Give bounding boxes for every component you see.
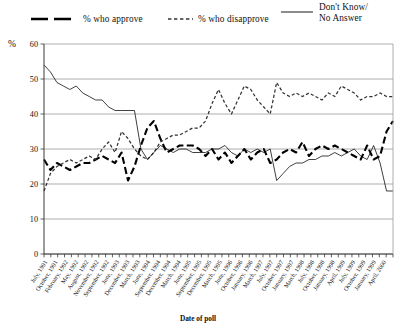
x-axis-title: Date of poll xyxy=(180,314,216,323)
data-series-group xyxy=(44,65,393,191)
series-line-disapprove xyxy=(44,83,393,192)
poll-approval-line-chart: % who approve % who disapprove Don't Kno… xyxy=(0,0,406,333)
y-axis-ticks xyxy=(41,44,45,254)
x-axis-ticks xyxy=(44,254,393,257)
y-axis-tick-label: 30 xyxy=(30,145,38,154)
x-axis-labels: July, 1991October, 1991February, 1992May… xyxy=(29,259,387,298)
chart-plot-area: 0102030405060 July, 1991October, 1991Feb… xyxy=(0,0,406,333)
series-line-approve xyxy=(44,121,393,181)
y-axis-tick-label: 60 xyxy=(30,40,38,49)
series-line-dont-know xyxy=(44,65,393,191)
y-axis-tick-label: 50 xyxy=(30,75,38,84)
y-axis-tick-label: 0 xyxy=(34,250,38,259)
y-axis-tick-label: 40 xyxy=(30,110,38,119)
y-axis-tick-label: 20 xyxy=(30,180,38,189)
y-axis-labels: 0102030405060 xyxy=(30,40,38,259)
y-axis-unit-label: % xyxy=(8,39,16,49)
y-axis-tick-label: 10 xyxy=(30,215,38,224)
